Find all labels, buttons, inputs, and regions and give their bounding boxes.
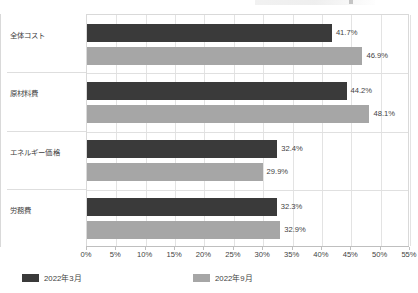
data-label-1-series-2: 46.9% xyxy=(366,47,388,65)
x-tick-label-30pct: 30% xyxy=(255,250,270,259)
x-tick-label-20pct: 20% xyxy=(196,250,211,259)
x-tick-label-40pct: 40% xyxy=(313,250,328,259)
category-label-4: 労務費 xyxy=(1,204,83,215)
data-label-3-series-1: 32.4% xyxy=(281,140,303,158)
data-label-2-series-1: 44.2% xyxy=(351,82,373,100)
data-label-4-series-2: 32.9% xyxy=(284,221,306,239)
x-tick-label-35pct: 35% xyxy=(284,250,299,259)
x-axis-line xyxy=(86,246,409,247)
category-label-2: 原材料費 xyxy=(1,87,83,98)
artifact-mark xyxy=(349,0,353,4)
bar-chart: 全体コスト原材料費エネルギー価格労務費 41.7%46.9%44.2%48.1%… xyxy=(0,0,418,293)
category-axis: 全体コスト原材料費エネルギー価格労務費 xyxy=(0,14,86,247)
gridline xyxy=(410,15,411,246)
data-label-2-series-2: 48.1% xyxy=(373,105,395,123)
plot-area: 41.7%46.9%44.2%48.1%32.4%29.9%32.3%32.9% xyxy=(86,14,409,247)
bar-3-series-2 xyxy=(87,163,263,181)
bar-4-series-2 xyxy=(87,221,280,239)
bar-2-series-1 xyxy=(87,82,347,100)
category-separator xyxy=(87,73,408,74)
legend-item-2[interactable]: 2022年9月 xyxy=(193,272,253,283)
x-tick-label-15pct: 15% xyxy=(166,250,181,259)
bar-4-series-1 xyxy=(87,198,277,216)
x-tick-label-10pct: 10% xyxy=(137,250,152,259)
legend-item-1[interactable]: 2022年3月 xyxy=(22,272,82,283)
legend-label-1: 2022年3月 xyxy=(44,272,82,283)
x-tick-label-45pct: 45% xyxy=(343,250,358,259)
category-separator xyxy=(87,132,408,133)
legend-swatch-2 xyxy=(193,274,210,282)
category-label-1: 全体コスト xyxy=(1,29,83,40)
bar-2-series-2 xyxy=(87,105,369,123)
category-label-separator xyxy=(7,189,86,190)
category-label-separator xyxy=(7,131,86,132)
cropped-title-artifact xyxy=(255,0,375,5)
x-tick-label-50pct: 50% xyxy=(372,250,387,259)
x-tick-label-25pct: 25% xyxy=(225,250,240,259)
bar-1-series-1 xyxy=(87,24,332,42)
data-label-3-series-2: 29.9% xyxy=(267,163,289,181)
bar-3-series-1 xyxy=(87,140,277,158)
legend-swatch-1 xyxy=(22,274,39,282)
data-label-4-series-1: 32.3% xyxy=(281,198,303,216)
legend-label-2: 2022年9月 xyxy=(215,272,253,283)
x-tick-label-0pct: 0% xyxy=(81,250,92,259)
x-tick-label-55pct: 55% xyxy=(401,250,416,259)
category-label-3: エネルギー価格 xyxy=(1,146,83,157)
category-label-separator xyxy=(7,72,86,73)
category-separator xyxy=(87,190,408,191)
x-tick-label-5pct: 5% xyxy=(110,250,121,259)
data-label-1-series-1: 41.7% xyxy=(336,24,358,42)
bar-1-series-2 xyxy=(87,47,362,65)
